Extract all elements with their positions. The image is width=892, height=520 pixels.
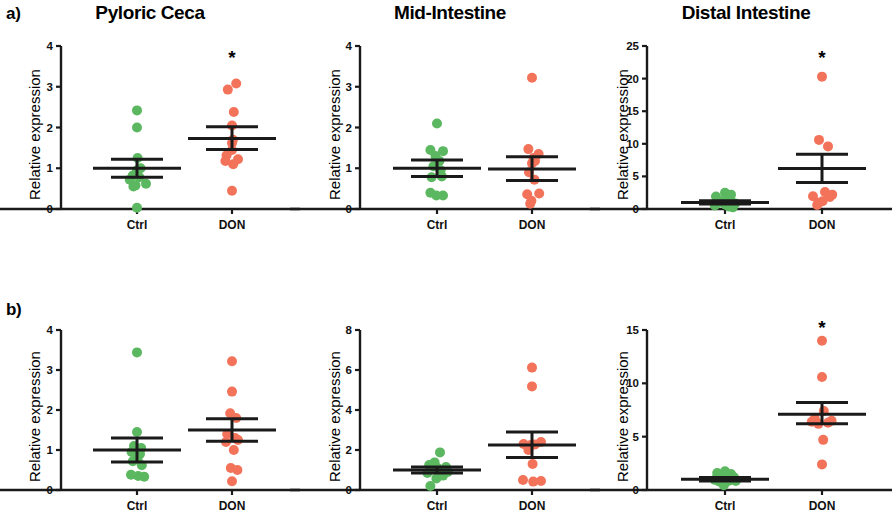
data-point (425, 481, 435, 491)
chart-panel-b-pyloric-ceca: Relative expression01234CtrlDON (0, 0, 300, 520)
x-tick-label-don: DON (809, 499, 836, 513)
y-tick-label: 5 (633, 431, 640, 443)
y-tick-label: 6 (346, 364, 352, 376)
y-tick-label: 2 (346, 444, 352, 456)
y-tick-label: 8 (346, 324, 353, 336)
chart-panel-b-distal-intestine: Relative expression051015CtrlDON* (600, 0, 892, 520)
data-point (435, 447, 445, 457)
mean-sem-marker-don (778, 403, 866, 424)
data-point (227, 356, 237, 366)
y-tick-label: 0 (346, 484, 352, 496)
x-tick-label-don: DON (219, 499, 246, 513)
y-tick-label: 4 (346, 404, 353, 416)
data-point (227, 476, 237, 486)
x-tick-label-ctrl: Ctrl (715, 499, 736, 513)
y-tick-label: 3 (47, 364, 53, 376)
plot-area-b-pyloric-ceca: 01234CtrlDON (0, 0, 300, 520)
significance-star: * (818, 317, 826, 338)
plot-area-b-mid-intestine: 02468CtrlDON (300, 0, 600, 520)
data-point (817, 372, 827, 382)
data-point (527, 363, 537, 373)
data-point (229, 445, 239, 455)
data-point (528, 459, 538, 469)
y-tick-label: 2 (47, 404, 53, 416)
data-point (818, 435, 828, 445)
y-tick-label: 15 (626, 324, 639, 336)
data-point (528, 477, 538, 487)
data-point (518, 475, 528, 485)
mean-sem-marker-ctrl (393, 467, 481, 473)
data-point (227, 387, 237, 397)
data-point (232, 465, 242, 475)
x-tick-label-ctrl: Ctrl (427, 499, 448, 513)
figure-root: a) b) Pyloric CecaRelative expression012… (0, 0, 892, 520)
mean-sem-marker-ctrl (93, 438, 181, 462)
plot-area-b-distal-intestine: 051015CtrlDON* (600, 0, 892, 520)
data-point (817, 459, 827, 469)
mean-sem-marker-don (188, 419, 276, 441)
data-point (527, 381, 537, 391)
y-tick-label: 4 (47, 324, 54, 336)
x-tick-label-ctrl: Ctrl (127, 499, 148, 513)
data-point (132, 427, 142, 437)
chart-panel-b-mid-intestine: Relative expression02468CtrlDON (300, 0, 600, 520)
x-tick-label-don: DON (519, 499, 546, 513)
y-tick-label: 0 (633, 484, 639, 496)
y-tick-label: 10 (626, 377, 639, 389)
data-point (132, 347, 142, 357)
y-tick-label: 1 (47, 444, 54, 456)
mean-sem-marker-don (488, 432, 576, 458)
data-point (139, 472, 149, 482)
mean-sem-marker-ctrl (681, 477, 769, 481)
y-tick-label: 0 (47, 484, 53, 496)
